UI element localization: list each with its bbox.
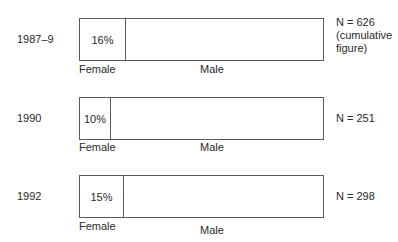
chart-row-1987-9: 1987–9 16% Female Male N = 626 (cumulati… bbox=[0, 18, 398, 88]
female-label: Female bbox=[79, 141, 116, 153]
proportion-bar: 16% bbox=[79, 18, 324, 61]
male-label: Male bbox=[200, 63, 224, 75]
n-value: N = 626 bbox=[336, 16, 392, 29]
year-label: 1992 bbox=[17, 190, 41, 202]
female-percent: 16% bbox=[91, 34, 113, 46]
female-label: Female bbox=[79, 220, 116, 232]
sample-size: N = 626 (cumulative figure) bbox=[336, 16, 392, 55]
female-segment: 16% bbox=[80, 19, 126, 60]
male-label: Male bbox=[200, 141, 224, 153]
chart-row-1990: 1990 10% Female Male N = 251 bbox=[0, 97, 398, 167]
note-line-2: figure) bbox=[336, 42, 392, 55]
note-line-1: (cumulative bbox=[336, 29, 392, 42]
proportion-bar: 15% bbox=[79, 175, 324, 218]
year-label: 1990 bbox=[17, 112, 41, 124]
female-percent: 15% bbox=[90, 191, 112, 203]
sample-size: N = 298 bbox=[336, 190, 375, 203]
female-percent: 10% bbox=[84, 113, 106, 125]
year-label: 1987–9 bbox=[17, 33, 54, 45]
female-segment: 10% bbox=[80, 98, 111, 139]
n-value: N = 251 bbox=[336, 112, 375, 125]
n-value: N = 298 bbox=[336, 190, 375, 203]
proportion-bar: 10% bbox=[79, 97, 324, 140]
female-label: Female bbox=[79, 63, 116, 75]
female-segment: 15% bbox=[80, 176, 124, 217]
male-label: Male bbox=[200, 224, 224, 236]
chart-row-1992: 1992 15% Female Male N = 298 bbox=[0, 175, 398, 242]
sample-size: N = 251 bbox=[336, 112, 375, 125]
